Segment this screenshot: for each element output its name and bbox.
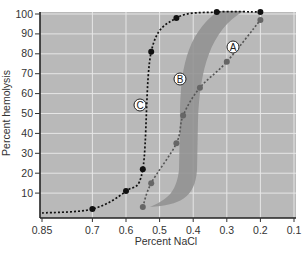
label-c: C: [134, 99, 146, 111]
y-tick-label: 20: [21, 167, 33, 179]
y-tick-label: 70: [21, 67, 33, 79]
label-a: A: [227, 41, 239, 53]
label-b-text: B: [177, 74, 184, 85]
x-tick-label: 0.6: [119, 224, 134, 236]
label-a-text: A: [230, 42, 237, 53]
hemolysis-chart: 100908070605040302010 0.850.70.60.50.40.…: [0, 0, 304, 254]
x-axis-title: Percent NaCl: [135, 235, 197, 247]
x-tick-label: 0.85: [32, 224, 53, 236]
x-tick-label: 0.3: [219, 224, 234, 236]
label-b: B: [174, 73, 186, 85]
y-tick-label: 90: [21, 27, 33, 39]
y-axis-title: Percent hemolysis: [0, 70, 12, 156]
label-c-text: C: [136, 100, 143, 111]
x-tick-label: 0.7: [85, 224, 100, 236]
y-tick-label: 100: [15, 8, 33, 20]
plot-area: [40, 12, 296, 218]
x-tick-label: 0.2: [253, 224, 268, 236]
y-tick-label: 40: [21, 127, 33, 139]
y-tick-label: 80: [21, 47, 33, 59]
y-tick-label: 10: [21, 187, 33, 199]
y-ticks: 100908070605040302010: [15, 8, 40, 199]
x-ticks: 0.850.70.60.50.40.30.20.1: [32, 218, 302, 236]
y-tick-label: 50: [21, 107, 33, 119]
y-tick-label: 60: [21, 87, 33, 99]
y-tick-label: 30: [21, 147, 33, 159]
x-tick-label: 0.1: [287, 224, 302, 236]
